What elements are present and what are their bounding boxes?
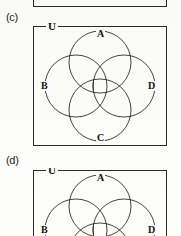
preceding-figure-box bbox=[33, 0, 167, 7]
panel-d-label-b: B bbox=[40, 225, 49, 235]
panel-d-circle-c bbox=[69, 223, 131, 236]
panel-c-circle-a bbox=[69, 31, 131, 93]
panel-c-circle-b bbox=[45, 55, 107, 117]
panel-c-label-d: D bbox=[147, 81, 156, 91]
panel-d-circle-a bbox=[69, 175, 131, 236]
panel-d-circle-b bbox=[45, 199, 107, 236]
panel-c-label-c: C bbox=[96, 133, 105, 143]
panel-c-label-a: A bbox=[96, 29, 105, 39]
panel-c-part-label: (c) bbox=[6, 12, 18, 23]
panel-c-circle-d bbox=[93, 55, 155, 117]
panel-d-circle-d bbox=[93, 199, 155, 236]
panel-d-part-label: (d) bbox=[6, 155, 19, 166]
panel-d-clip-frame: U A B D bbox=[0, 168, 181, 236]
panel-c-label-b: B bbox=[40, 81, 49, 91]
panel-d-label-a: A bbox=[96, 173, 105, 183]
panel-d-label-d: D bbox=[147, 225, 156, 235]
panel-d-shaded-intersection bbox=[93, 199, 155, 236]
